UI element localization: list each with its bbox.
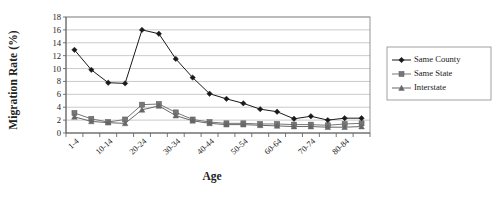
- data-point-marker: [291, 116, 296, 121]
- x-tick-label: 80-84: [330, 136, 351, 156]
- legend-label-same-county: Same County: [414, 54, 461, 64]
- data-point-marker: [241, 101, 246, 106]
- y-tick-label: 4: [57, 102, 62, 112]
- legend-label-interstate: Interstate: [414, 82, 446, 92]
- legend-label-same-state: Same State: [414, 68, 453, 78]
- series-same-county: [72, 27, 365, 123]
- data-point-marker: [325, 117, 330, 122]
- y-tick-label: 0: [57, 128, 61, 138]
- data-point-marker: [224, 96, 229, 101]
- y-tick-label: 16: [52, 25, 61, 35]
- y-axis-tick-labels: 024681012141618: [52, 12, 66, 138]
- y-tick-label: 8: [57, 76, 61, 86]
- y-tick-label: 14: [52, 38, 61, 48]
- y-tick-label: 2: [57, 115, 61, 125]
- gridlines: [66, 17, 370, 120]
- data-point-marker: [274, 109, 279, 114]
- plot-frame: [66, 17, 370, 133]
- series-line: [74, 106, 361, 127]
- data-point-marker: [139, 27, 144, 32]
- data-point-marker: [140, 102, 145, 107]
- x-tick-label: 30-34: [162, 136, 183, 156]
- x-axis-title: Age: [172, 170, 252, 182]
- x-tick-label: 50-54: [229, 136, 250, 156]
- x-tick-label: 70-74: [297, 136, 318, 156]
- chart-plot-area: 024681012141618 1-410-1420-2430-3440-445…: [0, 0, 498, 197]
- data-point-marker: [308, 114, 313, 119]
- series-line: [74, 30, 361, 120]
- data-point-marker: [399, 72, 404, 77]
- y-tick-label: 12: [52, 51, 61, 61]
- x-axis-tick-marks: [66, 133, 370, 137]
- y-tick-label: 6: [57, 89, 62, 99]
- x-tick-label: 10-14: [94, 136, 115, 156]
- y-tick-label: 10: [52, 64, 61, 74]
- chart-legend: Same CountySame StateInterstate: [387, 47, 491, 100]
- x-tick-label: 40-44: [195, 136, 216, 156]
- x-axis-tick-labels: 1-410-1420-2430-3440-4450-5460-6470-7480…: [66, 136, 351, 156]
- y-tick-label: 18: [52, 12, 61, 22]
- data-point-marker: [156, 31, 161, 36]
- migration-rate-line-chart: Migration Rate (%) 024681012141618 1-410…: [0, 0, 498, 197]
- x-tick-label: 60-64: [263, 136, 284, 156]
- x-tick-label: 20-24: [128, 136, 149, 156]
- x-tick-label: 1-4: [66, 136, 81, 151]
